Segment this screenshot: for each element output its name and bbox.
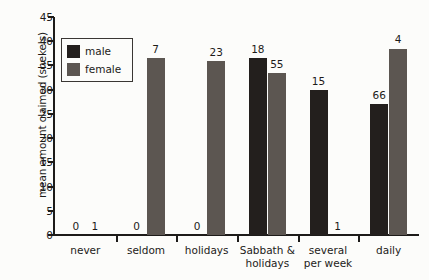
x-axis-label-5: daily bbox=[376, 244, 401, 257]
bar-sample-size-female-5: 4 bbox=[395, 33, 402, 45]
legend-item-male: male bbox=[67, 43, 127, 59]
legend-item-female: female bbox=[67, 61, 127, 77]
x-axis-label-line: per week bbox=[304, 257, 352, 270]
legend-label-male: male bbox=[85, 45, 111, 57]
bar-male-4 bbox=[310, 90, 328, 235]
x-axis-label-4: severalper week bbox=[304, 244, 352, 269]
x-axis-label-2: holidays bbox=[185, 244, 229, 257]
bar-sample-size-male-3: 18 bbox=[251, 43, 264, 55]
legend-swatch-male bbox=[67, 45, 80, 58]
legend-label-female: female bbox=[85, 63, 121, 75]
x-axis-label-line: Sabbath & bbox=[240, 244, 295, 257]
x-axis-tick-mark bbox=[176, 236, 178, 242]
x-axis-label-line: seldom bbox=[127, 244, 165, 257]
bar-sample-size-male-4: 15 bbox=[312, 75, 325, 87]
bar-female-3 bbox=[268, 73, 286, 235]
bar-male-5 bbox=[370, 104, 388, 235]
bar-sample-size-female-1: 7 bbox=[152, 43, 159, 55]
bar-sample-size-male-0: 0 bbox=[72, 220, 79, 232]
x-axis-label-3: Sabbath &holidays bbox=[240, 244, 295, 269]
x-axis-label-line: daily bbox=[376, 244, 401, 257]
bar-chart-figure: mean amount claimed (shekels) 0510152025… bbox=[0, 0, 429, 280]
chart-legend: male female bbox=[61, 38, 133, 82]
bar-sample-size-male-5: 66 bbox=[372, 89, 385, 101]
bar-sample-size-female-4: 1 bbox=[334, 220, 341, 232]
bar-male-3 bbox=[249, 58, 267, 235]
x-axis-label-1: seldom bbox=[127, 244, 165, 257]
bar-sample-size-female-2: 23 bbox=[209, 46, 222, 58]
x-axis-label-line: several bbox=[304, 244, 352, 257]
x-axis-tick-mark bbox=[237, 236, 239, 242]
bar-sample-size-female-3: 55 bbox=[270, 58, 283, 70]
bar-sample-size-female-0: 1 bbox=[91, 220, 98, 232]
bar-female-1 bbox=[147, 58, 165, 235]
x-axis-label-line: holidays bbox=[185, 244, 229, 257]
bar-female-5 bbox=[389, 49, 407, 236]
x-axis-label-line: holidays bbox=[240, 257, 295, 270]
bar-sample-size-male-2: 0 bbox=[194, 220, 201, 232]
bar-female-2 bbox=[207, 61, 225, 235]
x-axis-tick-mark bbox=[298, 236, 300, 242]
bar-sample-size-male-1: 0 bbox=[133, 220, 140, 232]
x-axis-label-0: never bbox=[70, 244, 100, 257]
x-axis-label-line: never bbox=[70, 244, 100, 257]
legend-swatch-female bbox=[67, 63, 80, 76]
x-axis-tick-mark bbox=[116, 236, 118, 242]
x-axis-tick-mark bbox=[358, 236, 360, 242]
